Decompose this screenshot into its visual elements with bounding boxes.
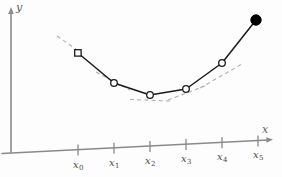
y-axis-arrow-icon <box>8 7 14 14</box>
tick-label-x1: x1 <box>109 158 119 168</box>
y-axis-label: y <box>16 2 22 13</box>
x-axis-label: x <box>262 124 268 135</box>
y-axis <box>8 7 14 152</box>
interpolant-polyline <box>78 20 256 95</box>
data-point-markers <box>75 15 262 98</box>
tick-label-x2: x2 <box>145 156 155 166</box>
tick-label-x4: x4 <box>217 152 227 162</box>
data-point-x5[interactable] <box>251 15 261 25</box>
data-point-x1[interactable] <box>111 80 118 87</box>
tick-label-x0: x0 <box>73 160 83 170</box>
data-point-x4[interactable] <box>219 60 226 67</box>
x-axis-arrow-icon <box>266 137 273 143</box>
data-point-x0[interactable] <box>75 50 81 56</box>
tick-label-x5: x5 <box>253 150 263 160</box>
x-axis <box>2 137 273 153</box>
data-point-x2[interactable] <box>147 92 154 99</box>
plot-svg <box>0 0 282 177</box>
tick-label-x3: x3 <box>181 154 191 164</box>
figure-canvas: y x x0 x1 x2 x3 x4 x5 <box>0 0 282 177</box>
tangent-at-x2 <box>130 100 170 102</box>
data-point-x3[interactable] <box>183 86 190 93</box>
tangent-at-x4 <box>200 64 242 88</box>
